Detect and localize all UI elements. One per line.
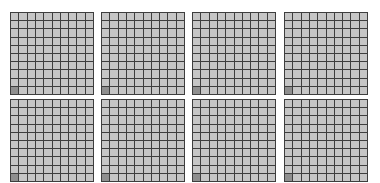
grid-cell[interactable]: [302, 79, 309, 86]
grid-cell[interactable]: [61, 62, 68, 69]
grid-cell[interactable]: [335, 62, 342, 69]
grid-cell[interactable]: [86, 87, 93, 94]
grid-cell[interactable]: [86, 70, 93, 77]
grid-cell[interactable]: [218, 125, 225, 132]
grid-cell[interactable]: [28, 62, 35, 69]
grid-cell[interactable]: [259, 149, 266, 156]
grid-cell[interactable]: [160, 125, 167, 132]
grid-cell[interactable]: [310, 62, 317, 69]
grid-cell[interactable]: [243, 166, 250, 173]
grid-cell[interactable]: [177, 108, 184, 115]
grid-cell[interactable]: [11, 38, 18, 45]
grid-cell[interactable]: [351, 54, 358, 61]
grid-cell[interactable]: [86, 29, 93, 36]
grid-cell[interactable]: [302, 38, 309, 45]
grid-cell[interactable]: [335, 100, 342, 107]
grid-cell[interactable]: [69, 70, 76, 77]
grid-cell[interactable]: [360, 141, 367, 148]
grid-cell[interactable]: [44, 29, 51, 36]
grid-cell[interactable]: [28, 174, 35, 181]
grid-cell[interactable]: [243, 21, 250, 28]
grid-cell[interactable]: [351, 100, 358, 107]
grid-cell[interactable]: [152, 125, 159, 132]
grid-cell[interactable]: [36, 149, 43, 156]
grid-cell[interactable]: [102, 70, 109, 77]
grid-cell[interactable]: [302, 13, 309, 20]
grid-cell[interactable]: [19, 87, 26, 94]
grid-cell[interactable]: [135, 21, 142, 28]
grid-cell[interactable]: [268, 100, 275, 107]
grid-cell[interactable]: [144, 125, 151, 132]
grid-cell[interactable]: [11, 100, 18, 107]
grid-cell[interactable]: [360, 13, 367, 20]
grid-cell[interactable]: [69, 174, 76, 181]
grid-cell[interactable]: [77, 157, 84, 164]
grid-cell[interactable]: [36, 62, 43, 69]
grid-cell[interactable]: [152, 87, 159, 94]
grid-cell[interactable]: [177, 116, 184, 123]
grid-cell[interactable]: [360, 54, 367, 61]
grid-cell[interactable]: [69, 62, 76, 69]
grid-cell[interactable]: [310, 100, 317, 107]
grid-cell[interactable]: [343, 87, 350, 94]
grid-cell[interactable]: [360, 125, 367, 132]
grid-cell[interactable]: [302, 149, 309, 156]
grid-cell[interactable]: [160, 166, 167, 173]
grid-cell[interactable]: [77, 46, 84, 53]
grid-cell[interactable]: [86, 21, 93, 28]
grid-cell[interactable]: [327, 62, 334, 69]
grid-cell[interactable]: [53, 79, 60, 86]
grid-cell[interactable]: [53, 157, 60, 164]
grid-cell[interactable]: [119, 87, 126, 94]
grid-cell[interactable]: [160, 133, 167, 140]
grid-cell[interactable]: [77, 21, 84, 28]
grid-cell[interactable]: [351, 133, 358, 140]
grid-cell[interactable]: [44, 125, 51, 132]
grid-cell[interactable]: [235, 46, 242, 53]
grid-cell[interactable]: [302, 100, 309, 107]
grid-cell[interactable]: [53, 38, 60, 45]
grid-cell[interactable]: [251, 46, 258, 53]
grid-cell[interactable]: [144, 62, 151, 69]
grid-cell[interactable]: [210, 116, 217, 123]
grid-cell[interactable]: [69, 166, 76, 173]
grid-cell[interactable]: [201, 29, 208, 36]
grid-cell[interactable]: [160, 108, 167, 115]
grid-cell[interactable]: [152, 141, 159, 148]
grid-cell[interactable]: [293, 149, 300, 156]
grid-cell[interactable]: [86, 133, 93, 140]
grid-cell[interactable]: [335, 166, 342, 173]
grid-cell[interactable]: [259, 70, 266, 77]
grid-cell[interactable]: [127, 166, 134, 173]
grid-cell[interactable]: [235, 100, 242, 107]
grid-cell[interactable]: [302, 54, 309, 61]
grid-cell[interactable]: [302, 116, 309, 123]
grid-cell[interactable]: [351, 108, 358, 115]
grid-cell[interactable]: [19, 62, 26, 69]
grid-cell[interactable]: [127, 87, 134, 94]
grid-cell[interactable]: [53, 21, 60, 28]
grid-cell[interactable]: [226, 79, 233, 86]
grid-cell[interactable]: [193, 125, 200, 132]
grid-cell[interactable]: [327, 141, 334, 148]
grid-cell[interactable]: [86, 100, 93, 107]
grid-cell[interactable]: [144, 166, 151, 173]
grid-cell[interactable]: [86, 54, 93, 61]
grid-cell[interactable]: [61, 157, 68, 164]
grid-cell[interactable]: [210, 141, 217, 148]
grid-cell[interactable]: [44, 13, 51, 20]
grid-cell[interactable]: [201, 133, 208, 140]
grid-cell[interactable]: [110, 70, 117, 77]
grid-cell[interactable]: [168, 21, 175, 28]
grid-cell[interactable]: [226, 62, 233, 69]
grid-cell[interactable]: [77, 13, 84, 20]
grid-cell[interactable]: [226, 125, 233, 132]
grid-cell[interactable]: [28, 29, 35, 36]
grid-cell[interactable]: [19, 46, 26, 53]
grid-cell[interactable]: [343, 149, 350, 156]
grid-cell[interactable]: [226, 21, 233, 28]
grid-cell[interactable]: [44, 108, 51, 115]
grid-cell[interactable]: [127, 46, 134, 53]
grid-cell[interactable]: [327, 174, 334, 181]
grid-cell[interactable]: [226, 87, 233, 94]
